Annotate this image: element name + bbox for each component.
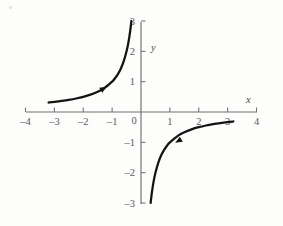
direction-arrow-upper-left <box>99 87 107 93</box>
curve-lower-right-branch <box>151 121 234 203</box>
curve-upper-left-branch <box>49 21 132 103</box>
x-tick-label--3: –3 <box>48 116 60 127</box>
x-tick-label--2: –2 <box>77 116 89 127</box>
x-tick-label-1: 1 <box>167 116 172 127</box>
x-tick-label--4: –4 <box>19 116 31 127</box>
faint-caption <box>74 216 214 221</box>
coordinate-plot: –4–3–2–11234 321–1–2–3 0 x y <box>0 0 283 226</box>
graph-figure: –4–3–2–11234 321–1–2–3 0 x y <box>0 0 283 226</box>
y-tick-label--1: –1 <box>124 137 136 148</box>
y-axis-label: y <box>150 42 156 53</box>
x-axis-label: x <box>245 94 251 105</box>
y-tick-label-2: 2 <box>130 46 135 57</box>
origin-label: 0 <box>131 115 136 126</box>
y-tick-label--3: –3 <box>124 198 136 209</box>
axes-group <box>26 22 257 204</box>
x-axis-tick-labels: –4–3–2–11234 <box>19 116 260 127</box>
y-tick-label--2: –2 <box>124 167 136 178</box>
y-tick-label-1: 1 <box>130 76 135 87</box>
x-tick-label-2: 2 <box>196 116 201 127</box>
x-tick-label-4: 4 <box>254 116 260 127</box>
x-tick-label--1: –1 <box>106 116 118 127</box>
